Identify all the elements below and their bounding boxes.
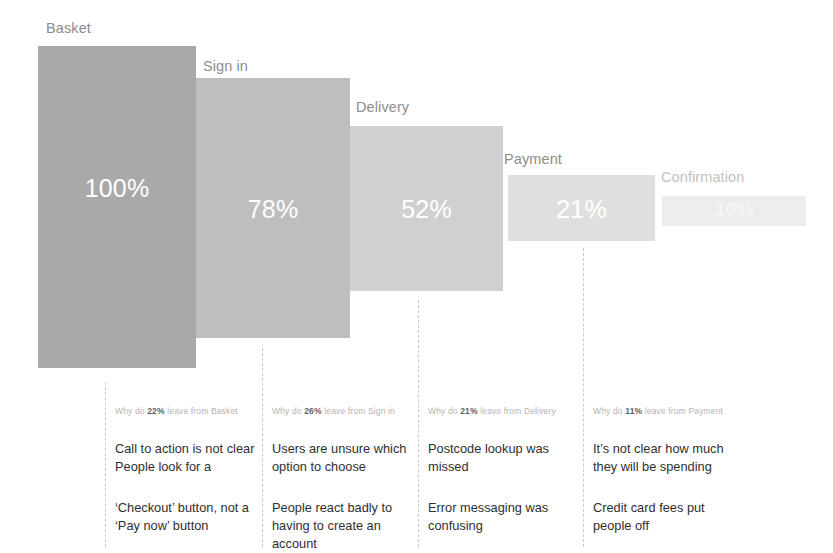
connector-line-basket bbox=[105, 382, 106, 547]
annotation-question-payment: Why do 11% leave from Payment bbox=[593, 406, 745, 416]
annotation-note: It’s not clear how much they will be spe… bbox=[593, 440, 745, 476]
funnel-bar-confirmation[interactable]: 10% bbox=[662, 196, 806, 226]
annotation-question-suffix: leave from Basket bbox=[165, 406, 238, 416]
funnel-bar-label-sign-in: Sign in bbox=[203, 58, 248, 74]
annotation-note: Call to action is not clear People look … bbox=[115, 440, 257, 476]
annotation-question-percent: 26% bbox=[304, 406, 321, 416]
annotation-question-suffix: leave from Sign in bbox=[322, 406, 395, 416]
annotation-question-prefix: Why do bbox=[115, 406, 147, 416]
annotation-note: Error messaging was confusing bbox=[428, 499, 576, 535]
annotation-question-percent: 22% bbox=[147, 406, 164, 416]
funnel-bar-label-basket: Basket bbox=[46, 20, 91, 36]
funnel-bar-value-confirmation: 10% bbox=[662, 199, 806, 221]
annotation-column-sign-in: Why do 26% leave from Sign in Users are … bbox=[272, 406, 414, 553]
annotation-question-percent: 21% bbox=[460, 406, 477, 416]
connector-line-delivery bbox=[418, 300, 419, 547]
annotation-column-delivery: Why do 21% leave from Delivery Postcode … bbox=[428, 406, 576, 535]
annotation-note: Credit card fees put people off bbox=[593, 499, 745, 535]
funnel-bar-value-basket: 100% bbox=[38, 174, 196, 203]
annotation-question-delivery: Why do 21% leave from Delivery bbox=[428, 406, 576, 416]
annotation-question-suffix: leave from Payment bbox=[642, 406, 723, 416]
funnel-bar-label-confirmation: Confirmation bbox=[661, 169, 744, 185]
annotation-question-suffix: leave from Delivery bbox=[478, 406, 556, 416]
annotation-note: ‘Checkout’ button, not a ‘Pay now’ butto… bbox=[115, 499, 257, 535]
funnel-chart: 100% Basket 78% Sign in 52% Delivery 21%… bbox=[0, 0, 833, 553]
annotation-question-prefix: Why do bbox=[272, 406, 304, 416]
annotation-column-payment: Why do 11% leave from Payment It’s not c… bbox=[593, 406, 745, 535]
connector-line-payment bbox=[583, 248, 584, 547]
annotation-question-prefix: Why do bbox=[428, 406, 460, 416]
funnel-bar-label-payment: Payment bbox=[504, 151, 562, 167]
funnel-bar-value-delivery: 52% bbox=[350, 195, 503, 224]
annotation-column-basket: Why do 22% leave from Basket Call to act… bbox=[115, 406, 257, 535]
annotation-note: People react badly to having to create a… bbox=[272, 499, 414, 553]
funnel-bar-label-delivery: Delivery bbox=[356, 99, 409, 115]
annotation-question-prefix: Why do bbox=[593, 406, 625, 416]
funnel-bar-delivery[interactable]: 52% bbox=[350, 126, 503, 291]
funnel-bar-sign-in[interactable]: 78% bbox=[196, 78, 350, 338]
annotation-question-sign-in: Why do 26% leave from Sign in bbox=[272, 406, 414, 416]
annotation-note: Users are unsure which option to choose bbox=[272, 440, 414, 476]
connector-line-sign-in bbox=[262, 348, 263, 547]
funnel-bar-value-sign-in: 78% bbox=[196, 195, 350, 224]
funnel-bar-payment[interactable]: 21% bbox=[508, 175, 655, 241]
funnel-bar-value-payment: 21% bbox=[508, 195, 655, 224]
funnel-bar-basket[interactable]: 100% bbox=[38, 46, 196, 368]
annotation-question-basket: Why do 22% leave from Basket bbox=[115, 406, 257, 416]
annotation-question-percent: 11% bbox=[625, 406, 642, 416]
annotation-note: Postcode lookup was missed bbox=[428, 440, 576, 476]
